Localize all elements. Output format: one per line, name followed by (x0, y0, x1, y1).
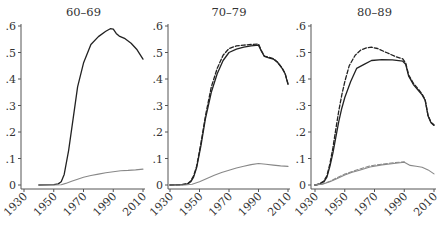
y-tick-label: .3 (6, 100, 17, 113)
x-tick-label: 1950 (322, 190, 351, 219)
y-tick-label: .2 (153, 126, 164, 139)
y-tick-label: .6 (296, 20, 307, 33)
y-tick-label: .4 (296, 73, 307, 86)
y-tick-label: .5 (6, 47, 17, 60)
x-tick-label: 1970 (61, 190, 90, 219)
panel-1: 60–690.1.2.3.4.5.619301950197019902010 (1, 5, 149, 219)
y-tick-label: .6 (6, 20, 17, 33)
panel-title: 70–79 (211, 5, 246, 19)
y-tick-label: .6 (153, 20, 164, 33)
panel-3: 80–890.1.2.3.4.5.619301950197019902010 (292, 5, 440, 219)
y-tick-label: .3 (296, 100, 307, 113)
series-dark-dashed (170, 44, 288, 185)
x-tick-label: 1970 (206, 190, 235, 219)
y-tick-label: .2 (296, 126, 307, 139)
y-tick-label: 0 (9, 179, 16, 192)
x-tick-label: 1990 (381, 190, 410, 219)
x-tick-label: 1970 (352, 190, 381, 219)
x-tick-label: 1930 (292, 190, 321, 219)
x-tick-label: 1950 (31, 190, 60, 219)
series-dark-dashed (315, 47, 434, 185)
series-gray-solid (170, 164, 288, 186)
y-tick-label: .4 (6, 73, 17, 86)
panel-title: 60–69 (66, 5, 101, 19)
y-tick-label: 0 (156, 179, 163, 192)
x-tick-label: 1930 (1, 190, 30, 219)
x-tick-label: 1990 (236, 190, 265, 219)
y-tick-label: .4 (153, 73, 164, 86)
y-tick-label: .1 (153, 153, 164, 166)
y-tick-label: 0 (299, 179, 306, 192)
x-tick-label: 2010 (411, 190, 440, 219)
chart-figure: 60–690.1.2.3.4.5.61930195019701990201070… (0, 0, 446, 232)
series-dark-solid (170, 45, 288, 185)
x-tick-label: 2010 (120, 190, 149, 219)
x-tick-label: 1950 (177, 190, 206, 219)
series-gray-solid (39, 169, 143, 185)
y-tick-label: .3 (153, 100, 164, 113)
y-tick-label: .1 (6, 153, 17, 166)
series-dark-solid (39, 29, 143, 185)
x-tick-label: 2010 (265, 190, 294, 219)
y-tick-label: .2 (6, 126, 17, 139)
y-tick-label: .5 (153, 47, 164, 60)
x-tick-label: 1990 (90, 190, 119, 219)
y-tick-label: .5 (296, 47, 307, 60)
panel-2: 70–790.1.2.3.4.5.619301950197019902010 (147, 5, 294, 219)
y-tick-label: .1 (296, 153, 307, 166)
panel-title: 80–89 (357, 5, 392, 19)
x-tick-label: 1930 (147, 190, 176, 219)
